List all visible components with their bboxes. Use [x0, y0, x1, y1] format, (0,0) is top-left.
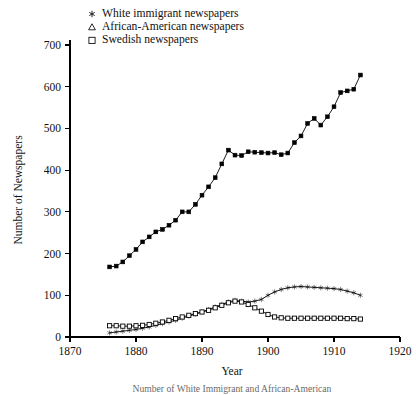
data-point-filled-square	[312, 117, 316, 121]
data-point-filled-square	[200, 193, 204, 197]
data-point-filled-square	[345, 89, 349, 93]
data-point-filled-square	[207, 185, 211, 189]
data-point-filled-square	[253, 150, 257, 154]
data-point-square	[167, 318, 171, 322]
data-point-square	[134, 324, 138, 328]
x-tick-label: 1870	[59, 345, 82, 357]
data-point-filled-square	[299, 134, 303, 138]
data-point-filled-square	[134, 248, 138, 252]
data-point-square	[246, 302, 250, 306]
legend-item-label: African-American newspapers	[102, 20, 244, 33]
data-point-filled-square	[332, 105, 336, 109]
square-glyph	[89, 37, 95, 43]
data-point-square	[339, 316, 343, 320]
data-point-filled-square	[319, 123, 323, 127]
data-point-filled-square	[233, 153, 237, 157]
data-point-star	[266, 293, 271, 298]
data-point-square	[273, 315, 277, 319]
x-axis-title: Year	[221, 365, 242, 377]
newspapers-line-chart: White immigrant newspapersAfrican-Americ…	[0, 0, 416, 395]
data-point-square	[141, 323, 145, 327]
series-1	[107, 284, 362, 336]
data-point-filled-square	[359, 73, 363, 77]
data-point-filled-square	[194, 202, 198, 206]
y-axis-title: Number of Newspapers	[12, 135, 25, 245]
data-point-filled-square	[141, 240, 145, 244]
data-point-star	[272, 289, 277, 294]
data-point-filled-square	[108, 265, 112, 269]
data-point-filled-square	[227, 148, 231, 152]
y-tick-label: 0	[55, 331, 61, 343]
data-point-square	[325, 316, 329, 320]
data-point-filled-square	[326, 115, 330, 119]
y-tick-label: 100	[44, 289, 62, 301]
data-point-square	[226, 301, 230, 305]
x-tick-label: 1900	[257, 345, 280, 357]
data-point-square	[292, 316, 296, 320]
x-tick-label: 1890	[191, 345, 214, 357]
star-glyph	[89, 11, 95, 17]
data-point-square	[352, 317, 356, 321]
data-point-filled-square	[220, 162, 224, 166]
data-point-filled-square	[167, 223, 171, 227]
data-point-filled-square	[266, 151, 270, 155]
data-point-square	[220, 303, 224, 307]
data-point-filled-square	[273, 151, 277, 155]
y-tick-label: 500	[44, 122, 62, 134]
data-point-square	[286, 316, 290, 320]
data-point-filled-square	[114, 264, 118, 268]
data-point-filled-square	[279, 153, 283, 157]
data-point-square	[299, 316, 303, 320]
x-tick-label: 1920	[389, 345, 412, 357]
data-point-square	[174, 317, 178, 321]
y-tick-label: 300	[44, 206, 62, 218]
data-point-square	[193, 312, 197, 316]
data-point-square	[279, 316, 283, 320]
data-point-square	[207, 308, 211, 312]
data-point-filled-square	[154, 230, 158, 234]
data-point-square	[154, 321, 158, 325]
series-2	[108, 299, 363, 328]
data-point-filled-square	[246, 150, 250, 154]
y-tick-label: 400	[44, 164, 62, 176]
legend-item-label: Swedish newspapers	[102, 33, 199, 46]
data-point-filled-square	[161, 227, 165, 231]
data-point-square	[187, 313, 191, 317]
data-point-filled-square	[339, 91, 343, 95]
data-point-square	[345, 317, 349, 321]
data-point-filled-square	[128, 254, 132, 258]
figure-container: White immigrant newspapersAfrican-Americ…	[0, 0, 416, 395]
y-tick-label: 600	[44, 81, 62, 93]
data-point-square	[147, 322, 151, 326]
data-point-square	[266, 312, 270, 316]
data-point-square	[306, 316, 310, 320]
data-point-square	[358, 317, 362, 321]
data-point-filled-square	[293, 141, 297, 145]
axis-lines	[70, 40, 400, 337]
y-tick-label: 200	[44, 248, 62, 260]
data-point-square	[332, 316, 336, 320]
triangle-glyph	[89, 24, 96, 30]
data-point-square	[213, 306, 217, 310]
data-point-filled-square	[174, 218, 178, 222]
data-point-square	[312, 316, 316, 320]
data-point-square	[180, 315, 184, 319]
data-point-square	[253, 306, 257, 310]
data-point-square	[127, 324, 131, 328]
data-point-square	[259, 309, 263, 313]
chart-axes: 0100200300400500600700187018801890190019…	[44, 39, 412, 357]
data-point-filled-square	[187, 210, 191, 214]
x-tick-label: 1910	[323, 345, 346, 357]
data-point-square	[121, 324, 125, 328]
data-point-square	[114, 324, 118, 328]
legend-item-label: White immigrant newspapers	[102, 7, 239, 20]
data-point-filled-square	[213, 176, 217, 180]
data-point-filled-square	[286, 151, 290, 155]
data-point-square	[240, 300, 244, 304]
data-point-square	[160, 320, 164, 324]
data-point-filled-square	[121, 260, 125, 264]
data-point-square	[200, 310, 204, 314]
x-tick-label: 1880	[125, 345, 148, 357]
figure-caption: Number of White Immigrant and African-Am…	[133, 383, 332, 394]
data-point-filled-square	[180, 210, 184, 214]
